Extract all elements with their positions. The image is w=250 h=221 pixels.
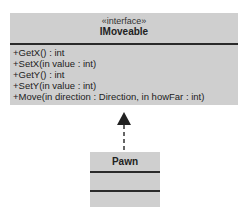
pawn-class-box: Pawn — [90, 152, 160, 207]
class-name: Pawn — [90, 156, 160, 168]
class-header: Pawn — [90, 152, 160, 171]
attributes-compartment — [90, 173, 160, 190]
triangle-arrowhead-icon — [117, 112, 131, 125]
operations-compartment — [90, 192, 160, 209]
